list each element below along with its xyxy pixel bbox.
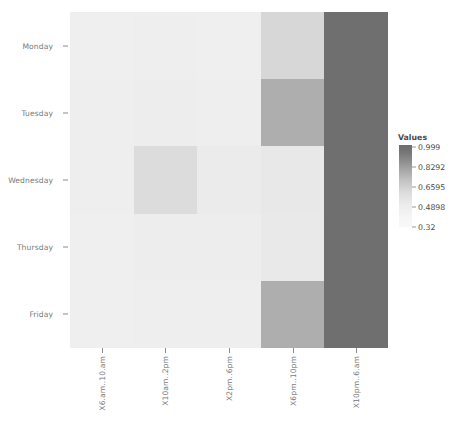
- legend-tick: [412, 147, 416, 148]
- heatmap-plot-panel: [70, 12, 388, 348]
- legend-tick-label: 0.4898: [418, 202, 445, 211]
- y-axis-label: Monday: [22, 41, 53, 50]
- legend-tick: [412, 186, 416, 187]
- heatmap-cell: [134, 214, 198, 281]
- heatmap-cell: [197, 12, 261, 79]
- y-axis-tick: [63, 247, 68, 248]
- y-axis-label: Tuesday: [21, 108, 53, 117]
- legend: Values 0.9990.82920.65950.48980.32: [398, 133, 461, 233]
- heatmap-cell-grid: [70, 12, 388, 348]
- x-axis: X6.am..10.amX10am..2pmX2pm..6pmX6pm..10p…: [70, 348, 388, 426]
- heatmap-cell: [197, 281, 261, 348]
- legend-tick-label: 0.6595: [418, 182, 445, 191]
- legend-tick: [412, 226, 416, 227]
- legend-colorbar: [399, 145, 412, 227]
- heatmap-cell: [134, 79, 198, 146]
- x-axis-label: X6pm..10pm: [288, 356, 297, 406]
- heatmap-cell: [197, 79, 261, 146]
- x-axis-label: X6.am..10.am: [97, 356, 106, 411]
- x-axis-tick: [102, 348, 103, 353]
- x-axis-tick: [356, 348, 357, 353]
- legend-tick-label: 0.32: [418, 222, 435, 231]
- heatmap-cell: [261, 281, 325, 348]
- y-axis-tick: [63, 112, 68, 113]
- y-axis-label: Friday: [29, 310, 53, 319]
- legend-title: Values: [398, 133, 427, 142]
- heatmap-figure: MondayTuesdayWednesdayThursdayFriday X6.…: [0, 0, 461, 426]
- heatmap-cell: [324, 214, 388, 281]
- heatmap-cell: [134, 146, 198, 213]
- heatmap-cell: [197, 214, 261, 281]
- y-axis-label: Wednesday: [8, 176, 53, 185]
- y-axis-label: Thursday: [17, 243, 53, 252]
- heatmap-cell: [70, 79, 134, 146]
- heatmap-cell: [261, 214, 325, 281]
- legend-tick-label: 0.8292: [418, 162, 445, 171]
- legend-tick: [412, 166, 416, 167]
- y-axis-tick: [63, 314, 68, 315]
- x-axis-label: X10am..2pm: [161, 356, 170, 406]
- x-axis-tick: [293, 348, 294, 353]
- legend-tick: [412, 206, 416, 207]
- heatmap-cell: [324, 79, 388, 146]
- legend-tick-label: 0.999: [418, 143, 440, 152]
- x-axis-label: X2pm..6pm: [225, 356, 234, 401]
- heatmap-cell: [134, 12, 198, 79]
- heatmap-cell: [70, 214, 134, 281]
- heatmap-cell: [70, 12, 134, 79]
- heatmap-cell: [197, 146, 261, 213]
- heatmap-cell: [324, 281, 388, 348]
- y-axis-tick: [63, 45, 68, 46]
- heatmap-cell: [70, 146, 134, 213]
- x-axis-tick: [229, 348, 230, 353]
- y-axis-tick: [63, 180, 68, 181]
- x-axis-tick: [165, 348, 166, 353]
- heatmap-cell: [324, 146, 388, 213]
- heatmap-cell: [70, 281, 134, 348]
- heatmap-cell: [134, 281, 198, 348]
- heatmap-cell: [261, 79, 325, 146]
- heatmap-cell: [261, 146, 325, 213]
- x-axis-label: X10pm..6.am: [352, 356, 361, 408]
- heatmap-cell: [261, 12, 325, 79]
- heatmap-cell: [324, 12, 388, 79]
- y-axis: MondayTuesdayWednesdayThursdayFriday: [0, 12, 63, 348]
